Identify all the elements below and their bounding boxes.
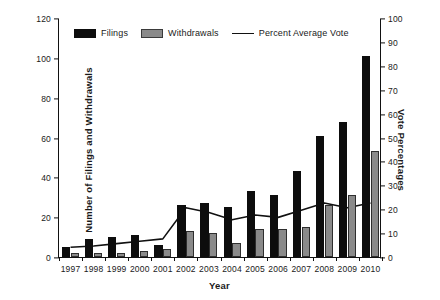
x-axis-tick-label: 1998 [84,264,104,274]
y-axis-tick-left [54,98,59,99]
bar-withdrawals [163,249,171,257]
x-axis-tick-label: 2004 [222,264,242,274]
chart-container: Number of Filings and Withdrawals Vote P… [0,0,440,300]
x-axis-tick [244,257,245,261]
bar-filings [154,245,162,257]
legend-swatch-withdrawals-icon [141,29,163,38]
y-axis-tick-label-right: 90 [388,38,398,48]
bar-withdrawals [255,229,263,257]
bar-filings [108,237,116,257]
chart-legend: FilingsWithdrawalsPercent Average Vote [74,28,349,38]
y-axis-tick-label-right: 70 [388,86,398,96]
y-axis-tick-label-right: 40 [388,157,398,167]
y-axis-tick-label-right: 30 [388,181,398,191]
bar-filings [247,191,255,257]
bar-filings [131,235,139,257]
x-axis-tick [359,257,360,261]
y-axis-tick-right [380,90,385,91]
x-axis-tick-label: 2007 [291,264,311,274]
y-axis-tick-left [54,58,59,59]
legend-swatch-filings-icon [74,29,96,38]
x-axis-tick [59,257,60,261]
x-axis-tick [197,257,198,261]
bar-withdrawals [140,251,148,257]
x-axis-tick-label: 2001 [153,264,173,274]
bar-withdrawals [302,227,310,257]
y-axis-tick-label-right: 0 [388,253,393,263]
bar-filings [62,247,70,257]
bar-withdrawals [348,195,356,257]
x-axis-tick [267,257,268,261]
x-axis-tick [290,257,291,261]
bar-filings [224,207,232,257]
x-axis-tick [313,257,314,261]
y-axis-tick-label-left: 80 [41,94,51,104]
x-axis-tick-label: 2010 [361,264,381,274]
y-axis-tick-right [380,18,385,19]
y-axis-tick-label-right: 20 [388,205,398,215]
legend-label: Percent Average Vote [259,28,349,38]
x-axis-tick-label: 2000 [130,264,150,274]
bar-withdrawals [186,231,194,257]
x-axis-tick [105,257,106,261]
y-axis-tick-left [54,218,59,219]
x-axis-tick [382,257,383,261]
bar-filings [177,205,185,257]
y-axis-tick-right [380,42,385,43]
x-axis-tick [82,257,83,261]
y-axis-tick-right [380,186,385,187]
bar-filings [362,56,370,257]
y-axis-tick-left [54,178,59,179]
bar-withdrawals [94,253,102,257]
bar-filings [85,239,93,257]
x-axis-tick [151,257,152,261]
x-axis-tick-label: 2008 [314,264,334,274]
y-axis-tick-right [380,114,385,115]
x-axis-tick-label: 1999 [107,264,127,274]
bar-withdrawals [371,151,379,257]
y-axis-tick-right [380,210,385,211]
x-axis-tick-label: 2005 [245,264,265,274]
x-axis-tick [128,257,129,261]
legend-item-line[interactable]: Percent Average Vote [232,28,349,38]
bar-withdrawals [325,205,333,257]
bar-filings [339,122,347,257]
x-axis-tick-label: 2002 [176,264,196,274]
bar-withdrawals [209,233,217,257]
bar-withdrawals [278,229,286,257]
x-axis-tick-label: 2003 [199,264,219,274]
plot-area: 0204060801001200102030405060708090100199… [58,19,381,258]
y-axis-tick-label-left: 20 [41,213,51,223]
x-axis-tick [174,257,175,261]
bar-withdrawals [117,253,125,257]
y-axis-tick-left [54,18,59,19]
y-axis-tick-label-left: 0 [46,253,51,263]
bar-filings [200,203,208,257]
x-axis-label: Year [58,280,381,291]
legend-item-filings[interactable]: Filings [74,28,128,38]
y-axis-tick-label-right: 60 [388,110,398,120]
bar-filings [270,195,278,257]
x-axis-tick-label: 2009 [338,264,358,274]
y-axis-tick-label-right: 80 [388,62,398,72]
y-axis-tick-right [380,162,385,163]
y-axis-tick-right [380,138,385,139]
bar-withdrawals [232,243,240,257]
y-axis-label-right: Vote Percentages [395,109,406,191]
y-axis-tick-label-right: 100 [388,14,403,24]
x-axis-tick [336,257,337,261]
y-axis-tick-right [380,66,385,67]
legend-label: Withdrawals [168,28,219,38]
x-axis-tick-label: 1997 [61,264,81,274]
y-axis-tick-left [54,138,59,139]
legend-item-withdrawals[interactable]: Withdrawals [141,28,219,38]
y-axis-tick-label-left: 60 [41,134,51,144]
bar-filings [293,171,301,257]
y-axis-tick-label-left: 120 [36,14,51,24]
bar-withdrawals [71,253,79,257]
y-axis-tick-label-left: 100 [36,54,51,64]
legend-swatch-line-icon [232,33,254,34]
y-axis-tick-label-right: 10 [388,229,398,239]
y-axis-tick-right [380,233,385,234]
y-axis-tick-label-left: 40 [41,173,51,183]
